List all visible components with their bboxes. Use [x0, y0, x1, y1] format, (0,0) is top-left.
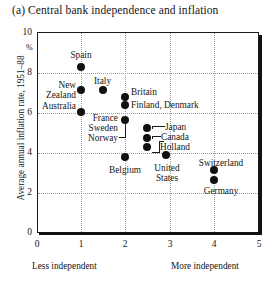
leader-line-holland-h — [152, 152, 160, 153]
data-point-finland-denmark — [121, 101, 129, 109]
data-point-belgium — [121, 153, 129, 161]
data-point-new-zealand — [77, 86, 85, 94]
leader-line-japan-v — [152, 126, 153, 129]
data-point-japan — [143, 124, 151, 132]
leader-line-canada-v — [152, 136, 153, 139]
data-point-britain — [121, 93, 129, 101]
gridline-y-8 — [38, 73, 258, 74]
figure-panel: (a) Central bank independence and inflat… — [0, 0, 274, 282]
data-point-holland — [143, 143, 151, 151]
label-italy: Italy — [94, 76, 111, 86]
figure-title: (a) Central bank independence and inflat… — [12, 4, 218, 16]
xtick-1: 1 — [72, 240, 90, 250]
xtick-3: 3 — [161, 240, 179, 250]
label-holland: Holland — [160, 142, 190, 152]
label-sweden: Sweden — [60, 123, 118, 133]
label-australia: Australia — [16, 101, 76, 111]
label-states: States — [144, 173, 190, 183]
xtick-4: 4 — [205, 240, 223, 250]
data-point-spain — [77, 63, 85, 71]
data-point-canada — [143, 134, 151, 142]
xtick-2: 2 — [116, 240, 134, 250]
y-axis-title: Average annual inflation rate, 1951–88 — [16, 43, 26, 213]
y-axis-unit: % — [26, 44, 33, 52]
label-finland-denmark: Finland, Denmark — [131, 100, 199, 110]
leader-line-japan-h — [152, 126, 165, 127]
label-new: New — [16, 80, 76, 90]
gridline-x-4 — [214, 33, 215, 232]
label-germany: Germany — [191, 186, 251, 196]
ytick-10: 10 — [10, 28, 32, 38]
label-belgium: Belgium — [100, 165, 150, 175]
leader-line-holland-v — [159, 141, 160, 152]
leader-line-holland-h2 — [159, 141, 164, 142]
label-canada: Canada — [161, 132, 189, 142]
label-britain: Britain — [131, 87, 157, 97]
label-norway: Norway — [60, 133, 118, 143]
label-japan: Japan — [165, 122, 186, 132]
ytick-0: 0 — [10, 228, 32, 238]
data-point-germany — [210, 176, 218, 184]
xtick-0: 0 — [28, 240, 46, 250]
label-zealand: Zealand — [16, 90, 76, 100]
data-point-italy — [99, 86, 107, 94]
frame-shadow-bottom — [39, 232, 261, 235]
frame-shadow-right — [259, 35, 262, 235]
x-axis-label-more-independent: More independent — [171, 261, 239, 271]
x-axis-label-less-independent: Less independent — [32, 261, 97, 271]
label-united: United — [144, 163, 190, 173]
leader-line-france-sweden-norway-v — [125, 122, 126, 138]
xtick-5: 5 — [250, 240, 268, 250]
gridline-y-4 — [38, 153, 258, 154]
label-spain: Spain — [56, 50, 106, 60]
label-switzerland: Switzerland — [191, 158, 251, 168]
leader-line-canada-h — [152, 136, 161, 137]
label-france: France — [60, 113, 118, 123]
